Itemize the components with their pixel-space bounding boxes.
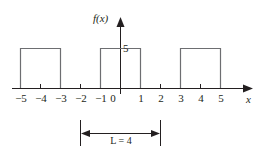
x-axis <box>12 85 253 93</box>
x-tick-label-minus3: −3 <box>53 93 69 104</box>
pulse-right-outline <box>181 49 221 89</box>
x-tick-label-zero: 0 <box>105 93 121 104</box>
pulse-right <box>181 49 221 89</box>
x-tick-label-minus2: −2 <box>73 93 89 104</box>
pulse-left-outline <box>21 49 61 89</box>
y-axis-label: f(x) <box>93 13 108 24</box>
x-axis-arrowhead <box>243 85 253 93</box>
x-tick-label-minus5: −5 <box>13 93 29 104</box>
dimension-arrowhead-left <box>81 130 90 137</box>
x-axis-label: x <box>246 94 251 105</box>
y-axis-arrowhead <box>117 17 125 27</box>
x-tick-label-5: 5 <box>213 93 229 104</box>
y-axis <box>117 17 125 94</box>
x-tick-label-4: 4 <box>193 93 209 104</box>
function-graph-figure: f(x) x 5 −5 −4 −3 −2 −1 0 1 2 3 4 5 L = … <box>0 0 276 160</box>
amplitude-value-label: 5 <box>123 43 129 54</box>
x-tick-label-minus4: −4 <box>33 93 49 104</box>
x-tick-label-3: 3 <box>173 93 189 104</box>
dimension-label: L = 4 <box>101 136 141 146</box>
pulse-left <box>21 49 61 89</box>
x-tick-label-1: 1 <box>133 93 149 104</box>
dimension-arrowhead-right <box>151 130 160 137</box>
x-tick-label-2: 2 <box>153 93 169 104</box>
